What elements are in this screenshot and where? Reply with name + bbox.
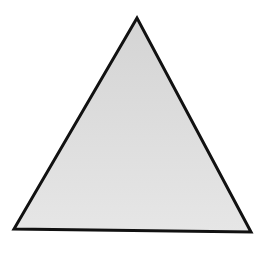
diagram-canvas bbox=[0, 0, 271, 255]
triangle-shape bbox=[14, 18, 251, 232]
